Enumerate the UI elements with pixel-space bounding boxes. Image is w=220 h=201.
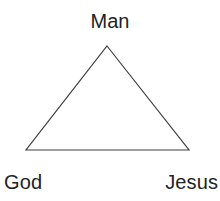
vertex-label-bottom-left-god: God (4, 172, 42, 192)
vertex-label-top-man: Man (0, 11, 220, 31)
triangle-shape (26, 46, 189, 150)
vertex-label-bottom-right-jesus: Jesus (165, 172, 218, 192)
diagram-canvas: Man God Jesus (0, 0, 220, 201)
